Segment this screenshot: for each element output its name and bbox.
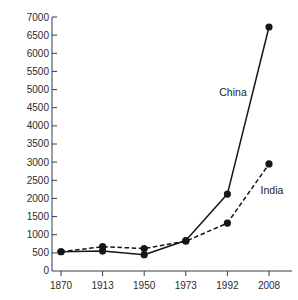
y-tick-label: 5500: [27, 66, 50, 77]
x-tick-label: 1973: [175, 280, 198, 291]
data-point-china-2008[interactable]: [265, 23, 272, 30]
line-chart: 7000 6500 6000 5500 5000 4500 4000 3500 …: [0, 0, 298, 300]
y-tick-label: 4500: [27, 102, 50, 113]
data-point-china-1950[interactable]: [141, 251, 148, 258]
x-tick-label: 1992: [216, 280, 239, 291]
y-tick-label: 500: [32, 247, 49, 258]
data-point-india-2008[interactable]: [265, 160, 272, 167]
data-point-india-1913[interactable]: [99, 243, 106, 250]
x-tick-label: 1913: [91, 280, 114, 291]
data-point-india-1950[interactable]: [141, 245, 148, 252]
y-tick-label: 7000: [27, 12, 50, 23]
data-point-india-1870[interactable]: [57, 248, 64, 255]
y-tick-label: 6500: [27, 30, 50, 41]
series-annotation-india: India: [261, 184, 284, 196]
chart-container: 7000 6500 6000 5500 5000 4500 4000 3500 …: [0, 0, 298, 300]
x-tick-label: 1950: [133, 280, 156, 291]
y-tick-label: 6000: [27, 48, 50, 59]
x-tick-label: 2008: [258, 280, 281, 291]
y-tick-label: 3500: [27, 138, 50, 149]
x-axis-tick-marks: [61, 271, 269, 276]
y-tick-label: 1000: [27, 229, 50, 240]
series-annotation-china: China: [219, 86, 247, 98]
x-axis-tick-labels: 1870 1913 1950 1973 1992 2008: [50, 280, 281, 291]
series-line-india: [61, 164, 269, 252]
y-axis-tick-marks: [52, 17, 57, 253]
data-point-india-1992[interactable]: [224, 220, 231, 227]
y-tick-label: 4000: [27, 120, 50, 131]
data-point-india-1973[interactable]: [182, 238, 189, 245]
y-tick-label: 0: [43, 265, 49, 276]
y-axis-tick-labels: 7000 6500 6000 5500 5000 4500 4000 3500 …: [27, 12, 50, 277]
series-line-china: [61, 27, 269, 255]
y-tick-label: 2000: [27, 193, 50, 204]
y-tick-label: 3000: [27, 157, 50, 168]
data-point-china-1992[interactable]: [224, 190, 231, 197]
x-tick-label: 1870: [50, 280, 73, 291]
series-layer: [57, 23, 272, 258]
y-tick-label: 5000: [27, 84, 50, 95]
y-tick-label: 1500: [27, 211, 50, 222]
y-tick-label: 2500: [27, 175, 50, 186]
